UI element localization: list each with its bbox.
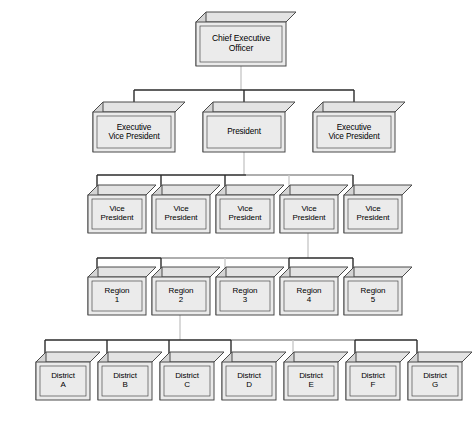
node-district-d[interactable]: [222, 352, 286, 400]
node-vp-4[interactable]: [280, 185, 348, 233]
node-vp-1[interactable]: [88, 185, 156, 233]
node-front-face: [98, 362, 152, 400]
node-evp-right[interactable]: [313, 102, 405, 152]
node-ceo[interactable]: [196, 12, 296, 66]
node-front-face: [203, 112, 285, 152]
node-front-face: [152, 277, 210, 315]
node-front-face: [88, 277, 146, 315]
node-region-2[interactable]: [152, 267, 220, 315]
node-front-face: [280, 195, 338, 233]
node-vp-5[interactable]: [344, 185, 412, 233]
node-region-3[interactable]: [216, 267, 284, 315]
node-region-4[interactable]: [280, 267, 348, 315]
node-district-b[interactable]: [98, 352, 162, 400]
node-front-face: [344, 277, 402, 315]
node-front-face: [36, 362, 90, 400]
node-region-1[interactable]: [88, 267, 156, 315]
node-front-face: [284, 362, 338, 400]
node-front-face: [93, 112, 175, 152]
node-front-face: [216, 195, 274, 233]
node-front-face: [280, 277, 338, 315]
org-chart-diagram: Chief Executive OfficerExecutive Vice Pr…: [0, 0, 475, 424]
node-region-5[interactable]: [344, 267, 412, 315]
node-district-e[interactable]: [284, 352, 348, 400]
node-front-face: [160, 362, 214, 400]
node-district-f[interactable]: [346, 352, 410, 400]
org-chart-canvas: [0, 0, 475, 424]
node-district-c[interactable]: [160, 352, 224, 400]
node-front-face: [222, 362, 276, 400]
node-front-face: [408, 362, 462, 400]
node-vp-2[interactable]: [152, 185, 220, 233]
node-president[interactable]: [203, 102, 295, 152]
node-front-face: [346, 362, 400, 400]
node-evp-left[interactable]: [93, 102, 185, 152]
node-front-face: [196, 22, 286, 66]
node-vp-3[interactable]: [216, 185, 284, 233]
node-top-face: [313, 102, 405, 112]
node-top-face: [203, 102, 295, 112]
node-front-face: [88, 195, 146, 233]
node-front-face: [216, 277, 274, 315]
node-district-g[interactable]: [408, 352, 472, 400]
node-front-face: [152, 195, 210, 233]
node-front-face: [313, 112, 395, 152]
node-district-a[interactable]: [36, 352, 100, 400]
node-top-face: [196, 12, 296, 22]
node-top-face: [93, 102, 185, 112]
node-front-face: [344, 195, 402, 233]
